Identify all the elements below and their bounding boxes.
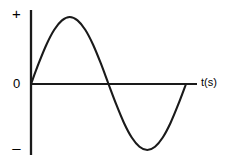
plot-canvas <box>0 0 225 166</box>
y-axis-positive-label: + <box>9 6 24 21</box>
axes-group <box>31 10 197 155</box>
y-axis-zero-label: 0 <box>9 77 24 90</box>
y-axis-negative-label: – <box>9 140 24 155</box>
sine-wave-figure: + 0 – t(s) <box>0 0 225 166</box>
x-axis-time-label: t(s) <box>201 77 217 88</box>
